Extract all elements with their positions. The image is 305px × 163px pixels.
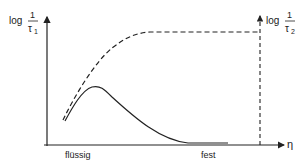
left-axis-label: log 1 τ 1	[9, 10, 38, 35]
svg-text:log: log	[9, 15, 22, 26]
svg-text:τ: τ	[285, 23, 289, 34]
curve-tau1	[65, 86, 228, 143]
diagram-canvas: log 1 τ 1 log 1 τ 2 η flüssig fest	[0, 0, 305, 163]
curve-tau2	[63, 32, 260, 120]
svg-text:log: log	[266, 15, 279, 26]
svg-text:τ: τ	[28, 23, 32, 34]
x-label-solid: fest	[201, 150, 216, 160]
svg-text:2: 2	[291, 28, 295, 35]
svg-text:1: 1	[34, 28, 38, 35]
x-axis-label: η	[287, 138, 293, 150]
right-axis-label: log 1 τ 2	[266, 10, 295, 35]
svg-text:1: 1	[287, 10, 292, 20]
svg-text:1: 1	[30, 10, 35, 20]
x-label-liquid: flüssig	[65, 150, 91, 160]
